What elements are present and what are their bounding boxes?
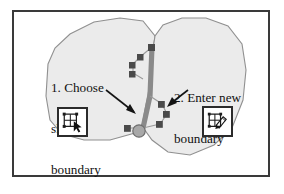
callout-step-1-line-3: boundary xyxy=(51,163,104,177)
vertex-handle[interactable] xyxy=(148,44,155,51)
figure-screenshot: 1. Choose shared boundary 2. Enter new b… xyxy=(0,0,284,194)
vertex-handle[interactable] xyxy=(129,71,136,78)
vertex-handle[interactable] xyxy=(158,101,165,108)
polygon-select-arrow-icon xyxy=(59,109,86,135)
select-boundary-tool-button[interactable] xyxy=(57,107,88,137)
junction-node[interactable] xyxy=(133,125,145,137)
vertex-handle[interactable] xyxy=(156,121,163,128)
vertex-handle[interactable] xyxy=(124,125,131,132)
polygon-pen-draw-icon xyxy=(204,108,231,135)
diagram-canvas xyxy=(0,0,284,194)
callout-step-2-line-1: 2. Enter new xyxy=(174,91,241,105)
draw-boundary-tool-button[interactable] xyxy=(202,106,233,137)
vertex-handle[interactable] xyxy=(163,111,170,118)
vertex-handle[interactable] xyxy=(129,62,136,69)
callout-step-1-line-1: 1. Choose xyxy=(51,81,104,95)
vertex-handle[interactable] xyxy=(137,54,144,61)
